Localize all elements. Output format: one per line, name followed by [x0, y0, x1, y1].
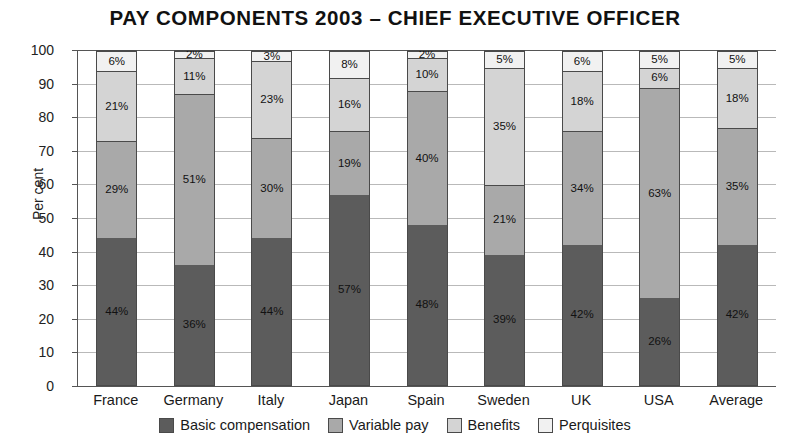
- legend-label: Benefits: [468, 417, 520, 433]
- y-axis-tick-label: 70: [0, 143, 54, 159]
- bar-italy[interactable]: 44%30%23%3%: [251, 50, 292, 386]
- bar-segment[interactable]: 26%: [640, 298, 679, 385]
- bar-segment[interactable]: 6%: [563, 51, 602, 71]
- x-axis-tick-label: Average: [690, 392, 782, 408]
- y-axis-tick-label: 30: [0, 277, 54, 293]
- bar-segment[interactable]: 18%: [718, 68, 757, 128]
- bar-segment-value-label: 44%: [260, 306, 283, 318]
- bar-germany[interactable]: 36%51%11%2%: [174, 50, 215, 386]
- bar-segment-value-label: 18%: [571, 96, 594, 108]
- bar-segment-value-label: 18%: [726, 93, 749, 105]
- bar-segment[interactable]: 36%: [175, 265, 214, 385]
- bar-segment-value-label: 30%: [260, 183, 283, 195]
- bar-segment-value-label: 16%: [338, 99, 361, 111]
- bar-segment[interactable]: 39%: [485, 255, 524, 385]
- bar-segment[interactable]: 42%: [563, 245, 602, 385]
- bar-segment-value-label: 19%: [338, 158, 361, 170]
- bar-segment[interactable]: 5%: [718, 51, 757, 68]
- bar-segment-value-label: 29%: [105, 184, 128, 196]
- bar-segment-value-label: 6%: [108, 56, 125, 68]
- y-axis-tick-label: 100: [0, 42, 54, 58]
- bar-segment[interactable]: 63%: [640, 88, 679, 298]
- bar-segment[interactable]: 2%: [175, 51, 214, 58]
- y-axis-tick: [72, 84, 78, 85]
- y-axis-tick-label: 80: [0, 109, 54, 125]
- bar-segment-value-label: 2%: [186, 50, 203, 61]
- legend-swatch-icon: [159, 418, 174, 433]
- legend-item[interactable]: Variable pay: [328, 417, 429, 433]
- bar-usa[interactable]: 26%63%6%5%: [639, 50, 680, 386]
- bar-segment-value-label: 2%: [419, 50, 436, 61]
- y-axis-tick: [72, 151, 78, 152]
- bar-segment[interactable]: 40%: [408, 91, 447, 225]
- bar-segment-value-label: 35%: [726, 181, 749, 193]
- chart-title: PAY COMPONENTS 2003 – CHIEF EXECUTIVE OF…: [0, 6, 790, 30]
- y-axis-tick: [72, 285, 78, 286]
- legend-swatch-icon: [538, 418, 553, 433]
- bar-segment-value-label: 26%: [648, 336, 671, 348]
- y-axis-tick: [72, 50, 78, 51]
- bar-segment[interactable]: 34%: [563, 131, 602, 245]
- bar-spain[interactable]: 48%40%10%2%: [407, 50, 448, 386]
- y-axis-tick: [72, 252, 78, 253]
- bar-segment-value-label: 3%: [264, 51, 281, 63]
- chart-legend: Basic compensationVariable payBenefitsPe…: [0, 417, 790, 433]
- legend-item[interactable]: Benefits: [447, 417, 520, 433]
- bar-segment-value-label: 48%: [415, 299, 438, 311]
- bar-segment[interactable]: 19%: [330, 131, 369, 194]
- legend-swatch-icon: [447, 418, 462, 433]
- bar-japan[interactable]: 57%19%16%8%: [329, 50, 370, 386]
- bar-segment[interactable]: 42%: [718, 245, 757, 385]
- bar-segment[interactable]: 5%: [640, 51, 679, 68]
- legend-item[interactable]: Perquisites: [538, 417, 631, 433]
- bar-segment[interactable]: 2%: [408, 51, 447, 58]
- bar-uk[interactable]: 42%34%18%6%: [562, 50, 603, 386]
- bar-segment[interactable]: 35%: [485, 68, 524, 185]
- y-axis-tick-label: 60: [0, 176, 54, 192]
- y-axis-tick-label: 50: [0, 210, 54, 226]
- bar-segment-value-label: 42%: [571, 309, 594, 321]
- y-axis-tick: [72, 184, 78, 185]
- bar-segment[interactable]: 44%: [97, 238, 136, 385]
- y-axis-tick-label: 90: [0, 76, 54, 92]
- bar-segment[interactable]: 44%: [252, 238, 291, 385]
- bar-segment[interactable]: 48%: [408, 225, 447, 385]
- bar-segment[interactable]: 11%: [175, 58, 214, 95]
- y-axis-tick: [72, 352, 78, 353]
- bar-segment[interactable]: 30%: [252, 138, 291, 238]
- bar-segment[interactable]: 29%: [97, 141, 136, 238]
- bar-segment[interactable]: 3%: [252, 51, 291, 61]
- bar-segment[interactable]: 8%: [330, 51, 369, 78]
- bar-segment[interactable]: 6%: [640, 68, 679, 88]
- legend-swatch-icon: [328, 418, 343, 433]
- y-axis-tick-label: 10: [0, 344, 54, 360]
- bar-segment[interactable]: 10%: [408, 58, 447, 91]
- legend-item[interactable]: Basic compensation: [159, 417, 310, 433]
- legend-label: Perquisites: [559, 417, 631, 433]
- bar-average[interactable]: 42%35%18%5%: [717, 50, 758, 386]
- bar-sweden[interactable]: 39%21%35%5%: [484, 50, 525, 386]
- bar-segment-value-label: 63%: [648, 188, 671, 200]
- bar-segment-value-label: 6%: [651, 72, 668, 84]
- bar-segment[interactable]: 21%: [97, 71, 136, 141]
- bar-segment[interactable]: 5%: [485, 51, 524, 68]
- legend-label: Basic compensation: [180, 417, 310, 433]
- y-axis-tick: [72, 319, 78, 320]
- bar-segment[interactable]: 6%: [97, 51, 136, 71]
- bar-france[interactable]: 44%29%21%6%: [96, 50, 137, 386]
- bar-segment[interactable]: 57%: [330, 195, 369, 385]
- bar-segment-value-label: 10%: [415, 69, 438, 81]
- bar-segment[interactable]: 16%: [330, 78, 369, 131]
- bar-segment[interactable]: 18%: [563, 71, 602, 131]
- y-axis-tick-label: 0: [0, 378, 54, 394]
- bar-segment[interactable]: 21%: [485, 185, 524, 255]
- y-axis-tick: [72, 218, 78, 219]
- bar-segment-value-label: 51%: [183, 174, 206, 186]
- bar-segment[interactable]: 51%: [175, 94, 214, 264]
- bar-segment[interactable]: 35%: [718, 128, 757, 245]
- bar-segment[interactable]: 23%: [252, 61, 291, 138]
- y-axis-tick-label: 40: [0, 244, 54, 260]
- bar-segment-value-label: 42%: [726, 309, 749, 321]
- bar-segment-value-label: 5%: [729, 54, 746, 66]
- bar-segment-value-label: 39%: [493, 314, 516, 326]
